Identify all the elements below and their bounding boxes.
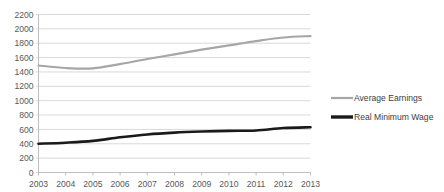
x-axis-tick-label: 2009 [192, 179, 211, 189]
y-axis-tick-label: 400 [19, 139, 34, 149]
y-axis-tick-label: 800 [19, 110, 34, 120]
y-axis-tick-label: 1800 [14, 38, 33, 48]
x-axis-tick-label: 2003 [29, 179, 48, 189]
x-axis-tick-label: 2008 [165, 179, 184, 189]
y-axis-tick-label: 0 [29, 168, 34, 178]
x-axis-tick-labels: 2003200420052006200720082009201020112012… [29, 179, 320, 189]
x-axis-tick-label: 2005 [83, 179, 102, 189]
x-axis-tick-label: 2006 [111, 179, 130, 189]
y-axis-tick-label: 2000 [14, 24, 33, 34]
legend-label: Real Minimum Wage [354, 112, 434, 122]
chart-canvas: 2200200018001600140012001000800600400200… [0, 0, 444, 192]
y-axis-tick-label: 1000 [14, 96, 33, 106]
x-axis-tick-label: 2011 [247, 179, 266, 189]
x-axis-tick-label: 2012 [274, 179, 293, 189]
legend-label: Average Earnings [354, 93, 422, 103]
x-axis-tick-label: 2013 [301, 179, 320, 189]
x-axis-tick-label: 2010 [219, 179, 238, 189]
y-axis-tick-label: 600 [19, 125, 34, 135]
x-axis-tick-label: 2007 [138, 179, 157, 189]
y-axis-tick-label: 2200 [14, 10, 33, 20]
y-axis-tick-label: 1200 [14, 81, 33, 91]
line-chart: 2200200018001600140012001000800600400200… [0, 0, 444, 192]
y-axis-tick-label: 1600 [14, 53, 33, 63]
x-axis-tick-label: 2004 [56, 179, 75, 189]
y-axis-tick-label: 200 [19, 153, 34, 163]
y-axis-tick-label: 1400 [14, 67, 33, 77]
